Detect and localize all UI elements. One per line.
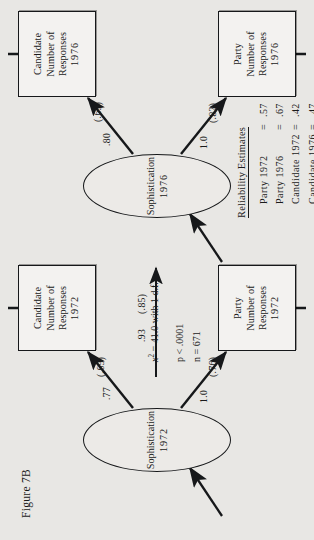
- observed-node-candidate-1972: Candidate Number of Responses 1972: [18, 265, 96, 351]
- reliability-estimates-title: Reliability Estimates: [236, 127, 249, 218]
- observed-node-line3: Responses: [257, 286, 269, 330]
- disturbance-arrow-soph1972: [190, 468, 222, 516]
- chi-square-value: = 41.0 with 1 d.f.: [149, 282, 160, 351]
- path-label-soph72-cand72-coefficient: .77: [101, 387, 112, 400]
- latent-node-label: Sophistication: [144, 157, 157, 215]
- p-value: < .0001: [174, 324, 185, 355]
- latent-node-sophistication-1976: Sophistication 1976: [83, 154, 231, 218]
- n-label: n: [191, 357, 202, 362]
- reliability-label: Candidate 1976: [305, 130, 314, 204]
- stat-spacer: [164, 282, 171, 362]
- path-label-soph72-cand72-standardized: (.65): [95, 357, 106, 377]
- reliability-label: Party 1976: [272, 130, 288, 204]
- observed-node-line1: Party: [232, 297, 244, 319]
- path-label-soph76-party76-standardized: (.82): [207, 103, 218, 123]
- observed-node-party-1972: Party Number of Responses 1972: [218, 265, 296, 351]
- p-value-row: p < .0001: [171, 282, 189, 362]
- latent-node-label: Sophistication: [144, 411, 157, 469]
- path-label-soph76-cand76-standardized: (.69): [92, 102, 103, 122]
- reliability-value: .67: [272, 103, 288, 117]
- reliability-value: .57: [256, 103, 272, 117]
- observed-node-line3: Responses: [257, 32, 269, 76]
- reliability-equals: =: [272, 117, 288, 130]
- reliability-equals: =: [256, 117, 272, 130]
- n-value: = 671: [191, 331, 202, 354]
- observed-node-line3: Responses: [57, 32, 69, 76]
- latent-node-sophistication-1972: Sophistication 1972: [83, 408, 231, 472]
- reliability-equals: =: [288, 117, 304, 130]
- chi-square-row: x2 = 41.0 with 1 d.f.: [146, 282, 164, 362]
- path-label-soph76-cand76-coefficient: .80: [101, 133, 112, 146]
- reliability-value: .47: [305, 103, 314, 117]
- reliability-estimates-list: Party 1972 = .57 Party 1976 = .67 Candid…: [256, 103, 314, 204]
- path-label-soph72-party72-coefficient: 1.0: [198, 390, 209, 403]
- observed-node-party-1976: Party Number of Responses 1976: [218, 11, 296, 97]
- reliability-row: Party 1976 = .67: [272, 103, 288, 204]
- observed-node-year: 1976: [69, 42, 81, 66]
- p-label: p: [174, 357, 185, 362]
- reliability-label: Party 1972: [256, 130, 272, 204]
- reliability-label: Candidate 1972: [288, 130, 304, 204]
- observed-node-line2: Number of: [245, 285, 257, 330]
- observed-node-candidate-1976: Candidate Number of Responses 1976: [18, 11, 96, 97]
- chi-square-exponent: 2: [148, 354, 156, 358]
- latent-node-year: 1976: [157, 174, 170, 198]
- reliability-row: Candidate 1972 = .42: [288, 103, 304, 204]
- observed-node-line2: Number of: [245, 31, 257, 76]
- observed-node-line1: Candidate: [32, 287, 44, 329]
- observed-node-year: 1972: [69, 296, 81, 320]
- reliability-row: Candidate 1976 = .47: [305, 103, 314, 204]
- observed-node-line2: Number of: [45, 285, 57, 330]
- observed-node-year: 1976: [269, 42, 281, 66]
- path-label-soph76-party76-coefficient: 1.0: [198, 136, 209, 149]
- observed-node-line2: Number of: [45, 31, 57, 76]
- n-row: n = 671: [188, 282, 206, 362]
- observed-node-line3: Responses: [57, 286, 69, 330]
- reliability-row: Party 1972 = .57: [256, 103, 272, 204]
- disturbance-arrow-soph1976: [190, 214, 222, 262]
- figure-page: Sophistication 1972 Sophistication 1976 …: [0, 0, 314, 540]
- chi-square-symbol: x: [149, 358, 160, 362]
- reliability-equals: =: [305, 117, 314, 130]
- observed-node-line1: Candidate: [32, 33, 44, 75]
- path-diagram-stage: Sophistication 1972 Sophistication 1976 …: [0, 0, 314, 540]
- path-label-soph72-party72-standardized: (.76): [207, 357, 218, 377]
- latent-node-year: 1972: [157, 428, 170, 452]
- figure-label: Figure 7B: [20, 469, 32, 518]
- observed-node-year: 1972: [269, 296, 281, 320]
- fit-statistics: x2 = 41.0 with 1 d.f. p < .0001 n = 671: [146, 282, 206, 362]
- observed-node-line1: Party: [232, 43, 244, 65]
- reliability-value: .42: [288, 103, 304, 117]
